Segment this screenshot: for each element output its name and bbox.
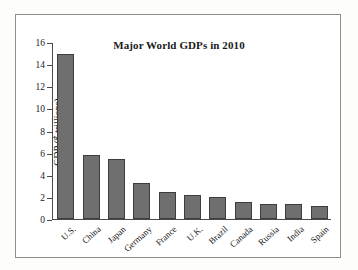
y-tick-label-0: 0	[40, 215, 45, 225]
y-tick-label-4: 4	[40, 171, 45, 181]
x-label-brazil: Brazil	[207, 224, 230, 246]
x-label-spain: Spain	[309, 224, 331, 245]
bar-uk	[184, 195, 201, 219]
y-tick-14	[47, 65, 52, 66]
x-label-india: India	[285, 224, 305, 244]
x-label-uk: U.K.	[184, 224, 204, 243]
figure-frame: Major World GDPs in 2010 GDP ($ trillion…	[15, 14, 341, 258]
bar-france	[159, 192, 176, 219]
y-tick-label-8: 8	[40, 127, 45, 137]
y-tick-16	[47, 43, 52, 44]
y-tick-2	[47, 198, 52, 199]
y-tick-label-10: 10	[36, 104, 46, 114]
bar-brazil	[209, 197, 226, 219]
y-tick-4	[47, 176, 52, 177]
bar-spain	[311, 206, 328, 219]
bar-series	[53, 43, 331, 219]
x-label-china: China	[80, 224, 103, 246]
x-label-russia: Russia	[256, 224, 281, 248]
chart-page: Major World GDPs in 2010 GDP ($ trillion…	[0, 0, 358, 270]
y-tick-8	[47, 132, 52, 133]
bar-us	[57, 54, 74, 219]
y-tick-12	[47, 87, 52, 88]
bar-china	[83, 155, 100, 219]
x-label-france: France	[154, 224, 179, 248]
y-tick-10	[47, 109, 52, 110]
x-axis-labels: U.S.ChinaJapanGermanyFranceU.K.BrazilCan…	[53, 220, 331, 270]
y-tick-0	[47, 220, 52, 221]
y-tick-6	[47, 154, 52, 155]
x-label-us: U.S.	[59, 224, 78, 242]
y-tick-label-16: 16	[36, 38, 46, 48]
bar-india	[285, 204, 302, 219]
y-tick-label-14: 14	[36, 60, 46, 70]
x-label-japan: Japan	[106, 224, 128, 245]
y-tick-label-6: 6	[40, 149, 45, 159]
x-label-canada: Canada	[228, 224, 255, 249]
plot-area: GDP ($ trillions) 0246810121416 U.S.Chin…	[52, 43, 331, 220]
bar-canada	[235, 202, 252, 219]
y-tick-label-12: 12	[36, 82, 46, 92]
y-tick-label-2: 2	[40, 193, 45, 203]
bar-japan	[108, 159, 125, 219]
bar-russia	[260, 204, 277, 219]
bar-germany	[133, 183, 150, 220]
